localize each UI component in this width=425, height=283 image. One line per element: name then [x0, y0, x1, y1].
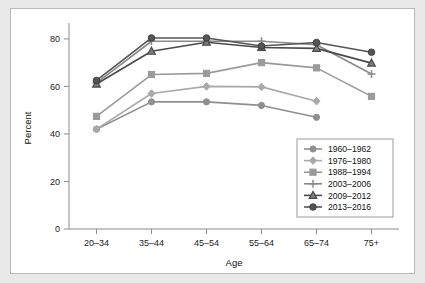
y-axis-title: Percent — [22, 111, 33, 144]
data-point-1960–1962-45–54 — [203, 99, 209, 105]
y-tick-label-80: 80 — [50, 34, 60, 44]
x-tick-label-3: 55–64 — [249, 238, 274, 248]
data-point-1960–1962-65–74 — [313, 114, 319, 120]
legend-label-2003–2006: 2003–2006 — [328, 179, 371, 189]
figure-panel: 02040608020–3435–4445–5455–6465–7475+Age… — [10, 8, 415, 274]
x-tick-label-1: 35–44 — [139, 238, 164, 248]
data-point-2013–2016-20–34 — [93, 77, 100, 84]
legend-item-1988–1994[interactable]: 1988–1994 — [304, 167, 371, 177]
line-chart: 02040608020–3435–4445–5455–6465–7475+Age… — [11, 9, 414, 273]
data-point-1988–1994-35–44 — [148, 71, 154, 77]
y-tick-label-0: 0 — [55, 224, 60, 234]
y-tick-label-40: 40 — [50, 129, 60, 139]
series-line-1960–1962 — [97, 102, 317, 129]
data-point-1976–1980-35–44 — [148, 90, 155, 98]
data-point-1960–1962-55–64 — [258, 102, 264, 108]
data-point-1988–1994-45–54 — [203, 70, 209, 76]
legend-label-2009–2012: 2009–2012 — [328, 191, 371, 201]
data-point-2013–2016-45–54 — [203, 35, 210, 42]
legend-label-2013–2016: 2013–2016 — [328, 202, 371, 212]
x-tick-label-4: 65–74 — [304, 238, 329, 248]
legend-marker-1988–1994 — [310, 169, 316, 175]
legend-marker-1960–1962 — [310, 146, 316, 152]
data-point-1976–1980-45–54 — [203, 83, 210, 91]
legend-label-1988–1994: 1988–1994 — [328, 167, 371, 177]
data-point-2013–2016-55–64 — [258, 43, 265, 50]
x-axis-title: Age — [226, 257, 243, 268]
data-point-2003–2006-75+ — [368, 70, 376, 78]
legend-label-1976–1980: 1976–1980 — [328, 156, 371, 166]
x-tick-label-2: 45–54 — [194, 238, 219, 248]
data-point-1976–1980-20–34 — [93, 125, 100, 133]
data-point-1960–1962-35–44 — [148, 99, 154, 105]
legend-label-1960–1962: 1960–1962 — [328, 144, 371, 154]
series-line-2003–2006 — [97, 41, 372, 83]
x-tick-label-0: 20–34 — [84, 238, 109, 248]
series-line-1976–1980 — [97, 86, 317, 129]
y-tick-label-20: 20 — [50, 177, 60, 187]
chart-plot-area: 02040608020–3435–4445–5455–6465–7475+Age… — [11, 9, 414, 273]
data-point-1976–1980-65–74 — [313, 97, 320, 105]
data-point-1988–1994-75+ — [368, 93, 374, 99]
data-point-1988–1994-55–64 — [258, 60, 264, 66]
data-point-2013–2016-75+ — [368, 49, 375, 56]
legend-marker-2013–2016 — [310, 204, 317, 211]
data-point-2013–2016-35–44 — [148, 35, 155, 42]
data-point-1988–1994-20–34 — [93, 113, 99, 119]
data-point-2013–2016-65–74 — [313, 39, 320, 46]
y-tick-label-60: 60 — [50, 82, 60, 92]
data-point-1988–1994-65–74 — [313, 65, 319, 71]
x-tick-label-5: 75+ — [364, 238, 379, 248]
data-point-1976–1980-55–64 — [258, 83, 265, 91]
